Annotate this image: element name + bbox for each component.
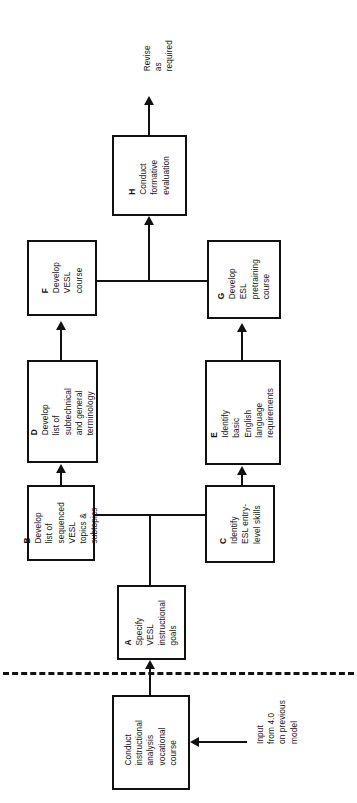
edge-h-to-output-line — [148, 104, 150, 135]
node-b-text-wrap: B Develop list of sequenced VESL topics … — [29, 487, 93, 559]
edge-merge-to-h-arrowhead — [144, 216, 154, 225]
node-a-text-wrap: A Specify VESL instructional goals — [119, 587, 184, 658]
node-d-body: Develop list of subtechnical and general… — [40, 388, 95, 435]
node-f-body: Develop VESL course — [51, 262, 83, 293]
node-f-label: F Develop VESL course — [40, 262, 85, 293]
node-g-develop-esl-pretraining-course[interactable]: G Develop ESL pretraining course — [207, 240, 281, 319]
label-revise-as-required: Revise as required — [142, 40, 212, 118]
node-e-text-wrap: E Identify basic English language requir… — [207, 362, 279, 463]
node-b-label: B Develop list of sequenced VESL topics … — [22, 502, 100, 544]
node-c-tag: C — [218, 538, 228, 544]
flowchart-canvas: Revise as required H Conduct formative e… — [0, 0, 357, 803]
label-input-source-text: Input from 4.0 on previous model — [255, 700, 300, 744]
edge-prior-to-a-arrowhead — [145, 660, 155, 669]
label-revise-as-required-text: Revise as required — [142, 40, 176, 71]
edge-input-to-prior-line — [199, 741, 247, 743]
node-f-tag: F — [40, 288, 50, 293]
node-d-tag: D — [29, 429, 39, 435]
node-f-develop-vesl-course[interactable]: F Develop VESL course — [27, 240, 97, 316]
node-prior-text-wrap: Conduct instructional analysis vocationa… — [114, 697, 188, 788]
node-c-identify-esl-entry-level-skills[interactable]: C Identify ESL entry- level skills — [205, 485, 275, 563]
node-f-text-wrap: F Develop VESL course — [29, 242, 95, 314]
node-h-body: Conduct formative evaluation — [138, 156, 170, 195]
node-e-label: E Identify basic English language requir… — [209, 388, 276, 438]
edge-d-to-f-line — [60, 329, 62, 360]
node-h-label: H Conduct formative evaluation — [127, 156, 172, 195]
edge-a-branch-stem — [149, 514, 151, 585]
node-prior-label: Conduct instructional analysis vocationa… — [123, 720, 179, 766]
edge-e-to-g-arrowhead — [237, 323, 247, 332]
edge-e-to-g-line — [241, 331, 243, 360]
node-b-tag: B — [22, 538, 32, 544]
edge-merge-to-h-line — [148, 224, 150, 282]
edge-c-to-e-arrowhead — [237, 466, 247, 475]
node-c-body: Identify ESL entry- level skills — [229, 504, 261, 544]
node-b-develop-sequenced-topics-list[interactable]: B Develop list of sequenced VESL topics … — [27, 485, 95, 561]
node-g-tag: G — [216, 293, 226, 300]
node-g-body: Develop ESL pretraining course — [227, 259, 271, 299]
node-a-specify-vesl-instructional-goals[interactable]: A Specify VESL instructional goals — [117, 585, 186, 660]
node-a-body: Specify VESL instructional goals — [135, 600, 179, 646]
phase-divider-dashed-line — [3, 672, 354, 675]
node-d-label: D Develop list of subtechnical and gener… — [29, 388, 96, 435]
node-a-tag: A — [123, 639, 133, 645]
node-a-label: A Specify VESL instructional goals — [123, 600, 179, 646]
node-e-body: Identify basic English language requirem… — [221, 388, 276, 438]
node-d-text-wrap: D Develop list of subtechnical and gener… — [29, 362, 96, 461]
node-d-develop-terminology-list[interactable]: D Develop list of subtechnical and gener… — [27, 360, 98, 463]
edge-h-to-output-arrowhead — [144, 96, 154, 105]
node-c-label: C Identify ESL entry- level skills — [218, 504, 263, 544]
node-conduct-instructional-analysis[interactable]: Conduct instructional analysis vocationa… — [112, 695, 190, 790]
node-h-conduct-formative-evaluation[interactable]: H Conduct formative evaluation — [112, 135, 187, 216]
node-e-identify-english-language-requirements[interactable]: E Identify basic English language requir… — [205, 360, 281, 465]
label-input-from-previous-model: Input from 4.0 on previous model — [255, 700, 345, 795]
node-g-text-wrap: G Develop ESL pretraining course — [209, 242, 279, 317]
edge-fg-merge-bar — [96, 280, 208, 282]
node-h-text-wrap: H Conduct formative evaluation — [114, 137, 185, 214]
edge-d-to-f-arrowhead — [56, 321, 66, 330]
node-g-label: G Develop ESL pretraining course — [216, 259, 272, 299]
edge-b-to-d-arrowhead — [56, 464, 66, 473]
node-e-tag: E — [209, 432, 219, 438]
node-c-text-wrap: C Identify ESL entry- level skills — [207, 487, 273, 561]
node-h-tag: H — [127, 189, 137, 195]
node-b-body: Develop list of sequenced VESL topics & … — [33, 502, 99, 544]
edge-input-to-prior-arrowhead — [190, 737, 199, 747]
